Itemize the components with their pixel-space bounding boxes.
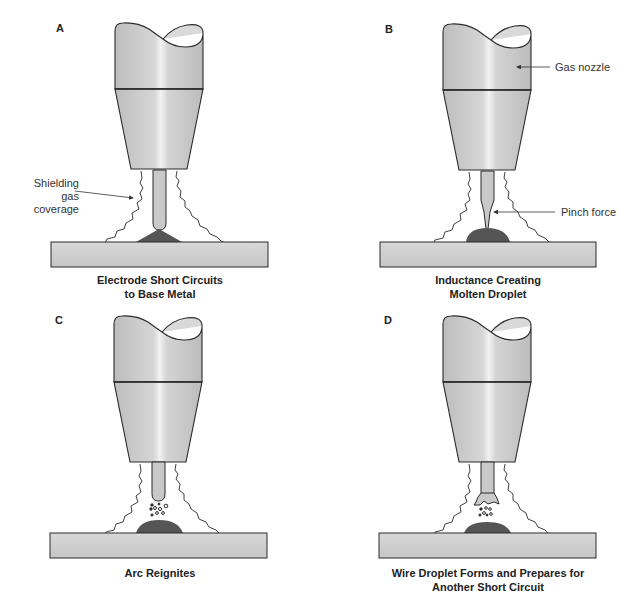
caption-panel-b: Inductance Creating Molten Droplet [388,273,588,301]
gas-nozzle [421,316,560,541]
caption-panel-d: Wire Droplet Forms and Prepares for Anot… [368,566,608,594]
weld-pool [136,520,183,533]
weld-pool [136,229,182,242]
weld-pool [464,522,511,533]
base-metal-plate [379,533,596,558]
base-metal-plate [380,242,596,267]
caption-line: Electrode Short Circuits [60,273,260,287]
base-metal-plate [50,533,267,558]
electrode-wire [152,462,165,501]
gas-nozzle [421,24,560,249]
callout-text: gas coverage [15,190,79,216]
callout-pinch-force: Pinch force [561,206,616,219]
caption-line: to Base Metal [60,287,260,301]
short-circuit-transfer-diagram: A B C D Shielding gas coverage Gas nozzl… [0,0,621,598]
panel-label-d: D [384,314,392,326]
caption-line: Arc Reignites [60,566,260,580]
caption-line: Inductance Creating [388,273,588,287]
caption-line: Wire Droplet Forms and Prepares for [368,566,608,580]
electrode-wire [481,171,494,231]
gas-nozzle [92,316,231,541]
base-metal-plate [51,242,268,267]
caption-line: Another Short Circuit [368,580,608,594]
callout-text: Shielding [17,177,79,190]
electrode-wire [153,170,166,230]
electrode-wire [481,462,494,494]
spatter-droplets [479,507,492,516]
caption-panel-c: Arc Reignites [60,566,260,580]
panel-c [50,316,267,558]
panel-label-b: B [385,23,393,35]
caption-panel-a: Electrode Short Circuits to Base Metal [60,273,260,301]
panel-label-a: A [56,22,64,34]
caption-line: Molten Droplet [388,287,588,301]
panel-label-c: C [55,314,63,326]
callout-shielding-gas: Shielding gas coverage [17,177,79,216]
panel-d [379,316,596,558]
callout-gas-nozzle: Gas nozzle [555,61,610,74]
spatter-droplets [150,503,168,516]
weld-pool [466,228,510,242]
forming-droplet [474,493,499,505]
shielding-gas-arrow [75,191,133,198]
panel-a [51,23,268,267]
